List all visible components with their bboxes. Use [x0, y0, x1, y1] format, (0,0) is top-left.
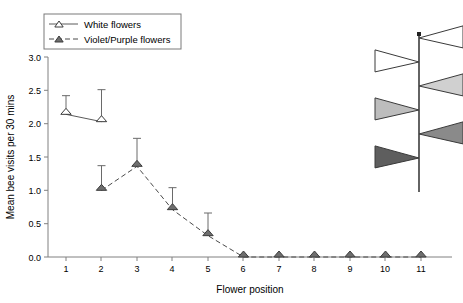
data-point-filled-triangle — [238, 251, 248, 257]
x-ticklabel-7: 7 — [276, 264, 281, 274]
bee-visits-chart: White flowers Violet/Purple flowers 0.0 … — [0, 0, 463, 303]
y-ticklabel-3: 1.5 — [28, 153, 41, 163]
x-ticklabel-3: 3 — [134, 264, 139, 274]
y-axis-title: Mean bee visits per 30 mins — [5, 95, 16, 220]
series-white-flowers — [61, 90, 107, 122]
data-point-filled-triangle — [380, 251, 390, 257]
x-ticklabel-10: 10 — [380, 264, 390, 274]
inflorescence-flower-3 — [419, 74, 463, 96]
x-ticklabel-5: 5 — [205, 264, 210, 274]
inflorescence-apex — [417, 32, 421, 36]
y-ticklabel-5: 2.5 — [28, 86, 41, 96]
data-point-filled-triangle — [345, 251, 355, 257]
x-ticklabel-2: 2 — [98, 264, 103, 274]
inflorescence-flower-1 — [419, 26, 463, 48]
y-ticklabel-2: 1.0 — [28, 186, 41, 196]
y-ticklabel-6: 3.0 — [28, 53, 41, 63]
y-ticklabel-4: 2.0 — [28, 119, 41, 129]
series-line — [102, 166, 422, 257]
x-axis-title: Flower position — [216, 284, 283, 295]
data-point-open-triangle — [96, 116, 106, 122]
legend-label-violet: Violet/Purple flowers — [84, 34, 171, 45]
inflorescence-flower-2 — [375, 50, 419, 72]
inflorescence-flower-5 — [419, 122, 463, 144]
data-point-filled-triangle — [132, 160, 142, 166]
data-point-open-triangle — [61, 108, 71, 114]
x-ticklabel-8: 8 — [311, 264, 316, 274]
y-axis: 0.0 0.5 1.0 1.5 2.0 2.5 3.0 Mean bee vis… — [5, 53, 48, 263]
data-point-filled-triangle — [416, 251, 426, 257]
y-ticklabel-1: 0.5 — [28, 219, 41, 229]
x-ticklabel-6: 6 — [240, 264, 245, 274]
y-ticklabel-0: 0.0 — [28, 253, 41, 263]
chart-figure: White flowers Violet/Purple flowers 0.0 … — [0, 0, 463, 303]
data-point-filled-triangle — [309, 251, 319, 257]
data-point-filled-triangle — [274, 251, 284, 257]
x-ticklabel-11: 11 — [416, 264, 425, 274]
inflorescence-flower-4 — [375, 98, 419, 120]
x-ticklabel-1: 1 — [63, 264, 68, 274]
x-ticklabel-9: 9 — [347, 264, 352, 274]
series-line — [66, 114, 102, 121]
legend-label-white: White flowers — [84, 19, 141, 30]
inflorescence-diagram — [375, 26, 463, 192]
x-axis: 1 2 3 4 5 6 7 8 9 10 11 Flower position — [48, 257, 452, 295]
chart-legend: White flowers Violet/Purple flowers — [44, 14, 181, 49]
inflorescence-flower-6 — [375, 146, 419, 168]
x-ticklabel-4: 4 — [169, 264, 174, 274]
